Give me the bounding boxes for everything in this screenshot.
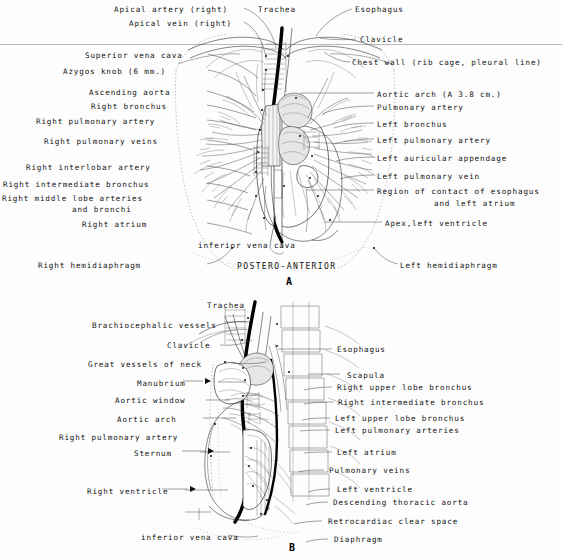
label-right-middle-lobe-arteries: Right middle lobe arteries <box>2 194 143 204</box>
panel-b-leaders-left <box>0 300 290 559</box>
label-brachiocephalic-vessels: Brachiocephalic vessels <box>92 321 217 331</box>
label-ascending-aorta: Ascending aorta <box>89 88 170 98</box>
label-pulmonary-veins: Pulmonary veins <box>329 466 410 476</box>
label-apical-artery-right: Apical artery (right) <box>114 5 228 15</box>
label-left-auricular-appendage: Left auricular appendage <box>377 154 507 164</box>
label-left-pulmonary-artery: Left pulmonary artery <box>377 136 491 146</box>
label-right-pulmonary-artery: Right pulmonary artery <box>36 117 155 127</box>
label-right-pulmonary-veins: Right pulmonary veins <box>44 137 158 147</box>
label-right-pulmonary-artery-b: Right pulmonary artery <box>59 433 178 443</box>
figure-page: Apical artery (right) Apical vein (right… <box>0 0 562 559</box>
panel-b-letter: B <box>289 542 296 553</box>
label-descending-thoracic-aorta: Descending thoracic aorta <box>333 498 469 508</box>
label-diaphragm: Diaphragm <box>334 535 383 545</box>
label-trachea-b: Trachea <box>207 301 245 311</box>
label-right-bronchus: Right bronchus <box>91 102 167 112</box>
label-left-hemidiaphragm: Left hemidiaphragm <box>400 261 498 271</box>
label-chest-wall: Chest wall (rib cage, pleural line) <box>352 58 542 68</box>
label-apical-vein-right: Apical vein (right) <box>129 19 232 29</box>
label-and-left-atrium: and left atrium <box>434 199 515 209</box>
label-apex-left-ventricle: Apex,left ventricle <box>385 219 488 229</box>
label-scapula: Scapula <box>347 371 385 381</box>
label-azygos-knob: Azygos knob (6 mm.) <box>63 67 166 77</box>
label-right-upper-lobe-bronchus: Right upper lobe bronchus <box>337 383 473 393</box>
label-right-atrium: Right atrium <box>82 220 147 230</box>
label-aortic-arch-b: Aortic arch <box>117 415 177 425</box>
label-right-hemidiaphragm: Right hemidiaphragm <box>38 261 141 271</box>
label-region-of-contact: Region of contact of esophagus <box>377 187 540 197</box>
label-trachea-a: Trachea <box>258 5 296 15</box>
label-right-interlobar-artery: Right interlobar artery <box>26 163 151 173</box>
panel-a-caption: POSTERO-ANTERIOR <box>237 262 336 271</box>
label-left-pulmonary-vein: Left pulmonary vein <box>377 172 480 182</box>
label-right-intermediate-bronchus-b: Right intermediate bronchus <box>338 398 484 408</box>
label-clavicle-a: Clavicle <box>360 35 403 45</box>
label-left-pulmonary-arteries: Left pulmonary arteries <box>335 426 460 436</box>
label-clavicle-b: Clavicle <box>167 341 210 351</box>
label-and-bronchi: and bronchi <box>72 205 132 215</box>
label-esophagus-a: Esophagus <box>355 5 404 15</box>
label-sternum: Sternum <box>134 449 172 459</box>
label-esophagus-b: Esophagus <box>337 345 386 355</box>
label-pulmonary-artery-a: Pulmonary artery <box>377 103 464 113</box>
panel-a-letter: A <box>286 276 293 287</box>
label-left-bronchus: Left bronchus <box>377 120 447 130</box>
label-superior-vena-cava: Superior vena cava <box>85 51 183 61</box>
label-left-upper-lobe-bronchus: Left upper lobe bronchus <box>335 414 465 424</box>
label-great-vessels-of-neck: Great vessels of neck <box>88 360 202 370</box>
label-aortic-arch-a: Aortic arch (A 3.8 cm.) <box>377 90 502 100</box>
label-inferior-vena-cava-b: inferior vena cava <box>141 533 239 543</box>
label-left-atrium: Left atrium <box>337 448 397 458</box>
label-manubrium: Manubrium <box>137 379 186 389</box>
label-inferior-vena-cava-a: inferior vena cava <box>198 241 296 251</box>
label-retrocardiac-clear-space: Retrocardiac clear space <box>328 517 458 527</box>
label-right-intermediate-bronchus: Right intermediate bronchus <box>3 180 149 190</box>
label-aortic-window: Aortic window <box>115 396 185 406</box>
label-right-ventricle: Right ventricle <box>87 487 168 497</box>
label-left-ventricle: Left ventricle <box>337 485 413 495</box>
